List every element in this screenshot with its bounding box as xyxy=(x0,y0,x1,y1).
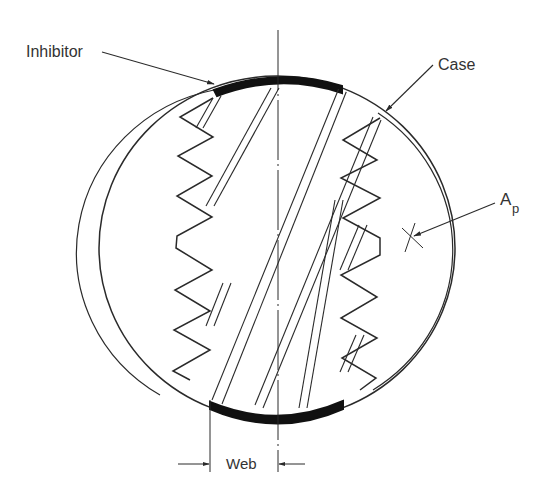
port-area-label: A xyxy=(500,190,512,209)
grain-cross-section-diagram: Inhibitor Case A p Web xyxy=(0,0,549,504)
case-leader xyxy=(386,65,433,111)
web-label: Web xyxy=(226,455,257,472)
inhibitor-label: Inhibitor xyxy=(26,43,84,60)
inhibitor-leader xyxy=(102,52,214,84)
left-star-zigzag xyxy=(173,98,213,380)
case-label: Case xyxy=(438,56,475,73)
helical-slot-lines xyxy=(196,88,381,408)
port-area-cross-icon xyxy=(402,223,423,252)
inhibitor-band-bottom xyxy=(210,401,343,424)
port-area-subscript: p xyxy=(512,201,519,216)
